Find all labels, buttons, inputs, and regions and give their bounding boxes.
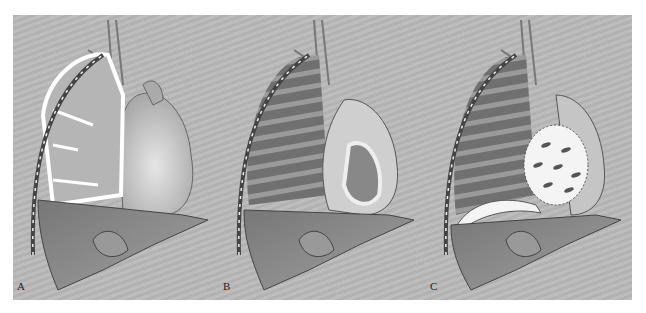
illustration-b — [219, 15, 425, 300]
figure: A B — [13, 15, 632, 300]
panel-label-b: B — [223, 280, 230, 292]
panel-label-a: A — [17, 280, 25, 292]
panel-b: B — [219, 15, 425, 300]
illustration-a — [13, 15, 219, 300]
panel-label-c: C — [430, 280, 437, 292]
panel-c: C — [426, 15, 632, 300]
illustration-c — [426, 15, 632, 300]
panel-a: A — [13, 15, 219, 300]
